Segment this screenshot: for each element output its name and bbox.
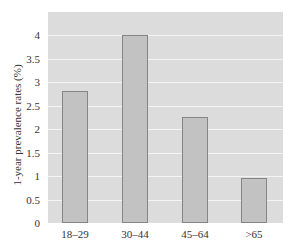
y-tick-label: 0.5	[10, 194, 40, 206]
plot-area	[48, 12, 283, 223]
x-tick-label: 30–44	[110, 228, 160, 240]
gridline	[48, 35, 283, 36]
bar-0	[62, 91, 88, 223]
y-tick-label: 4	[10, 29, 40, 41]
y-axis-label: 1-year prevalence rates (%)	[11, 64, 23, 185]
gridline	[48, 82, 283, 83]
bar-3	[241, 178, 267, 223]
x-tick-label: >65	[229, 228, 279, 240]
x-tick-label: 18–29	[50, 228, 100, 240]
y-tick-label: 0	[10, 217, 40, 229]
x-tick-label: 45–64	[170, 228, 220, 240]
bar-2	[182, 117, 208, 223]
bar-1	[122, 35, 148, 223]
gridline	[48, 59, 283, 60]
y-tick-label: 3.5	[10, 53, 40, 65]
